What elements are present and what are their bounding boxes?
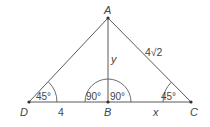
label-C: C [190,106,198,118]
point-A [106,16,109,19]
angle-label-C: 45° [161,91,176,102]
side-label-AB: y [110,53,118,65]
side-label-BC: x [152,106,159,118]
segment-AC [108,18,191,102]
segment-AD [29,18,108,102]
side-label-DB: 4 [58,106,64,118]
label-D: D [20,106,28,118]
angle-label-D: 45° [36,91,51,102]
point-D [27,100,30,103]
point-C [189,100,192,103]
triangle-diagram: A B C D 4 y 4√2 x 45° 90° 90° 45° [0,0,210,127]
label-A: A [103,4,111,16]
label-B: B [104,106,111,118]
side-label-AC: 4√2 [145,46,163,58]
angle-label-ABD: 90° [86,91,101,102]
angle-label-ABC: 90° [110,91,125,102]
